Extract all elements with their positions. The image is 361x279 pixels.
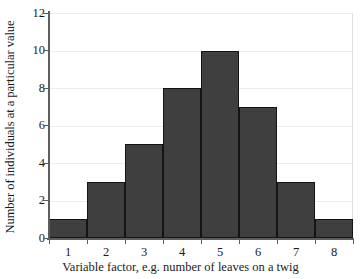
x-tick-mark (125, 238, 126, 244)
y-tick-label: 6 (20, 119, 45, 131)
histogram-figure: Number of individuals at a particular va… (0, 0, 361, 279)
x-tick-label: 2 (87, 245, 125, 259)
y-axis-tick-labels: 0 2 4 6 8 10 12 (20, 0, 45, 279)
y-tick-label: 4 (20, 157, 45, 169)
x-tick-mark (239, 238, 240, 244)
y-tick-label: 8 (20, 82, 45, 94)
x-tick-label: 1 (49, 245, 87, 259)
x-tick-mark (163, 238, 164, 244)
histogram-bar (87, 182, 125, 238)
x-tick-mark (201, 238, 202, 244)
y-tick-label: 10 (20, 44, 45, 56)
histogram-bar (239, 107, 277, 238)
x-tick-label: 4 (163, 245, 201, 259)
x-tick-label: 5 (201, 245, 239, 259)
y-axis-line (48, 11, 50, 239)
x-tick-label: 7 (277, 245, 315, 259)
x-tick-mark (315, 238, 316, 244)
histogram-bar (315, 219, 353, 238)
y-tick-label: 12 (20, 7, 45, 19)
x-tick-mark (353, 238, 354, 244)
x-tick-mark (87, 238, 88, 244)
y-tick-label: 2 (20, 194, 45, 206)
x-tick-mark (277, 238, 278, 244)
bar-series (49, 13, 352, 238)
x-tick-label: 8 (315, 245, 353, 259)
histogram-bar (163, 88, 201, 238)
plot-area (49, 13, 353, 238)
histogram-bar (201, 51, 239, 239)
histogram-bar (277, 182, 315, 238)
y-tick-label: 0 (20, 232, 45, 244)
histogram-bar (49, 219, 87, 238)
x-tick-mark (49, 238, 50, 244)
x-tick-label: 6 (239, 245, 277, 259)
histogram-bar (125, 144, 163, 238)
x-tick-label: 3 (125, 245, 163, 259)
x-axis-label: Variable factor, e.g. number of leaves o… (0, 260, 361, 275)
y-axis-label: Number of individuals at a particular va… (1, 7, 19, 247)
